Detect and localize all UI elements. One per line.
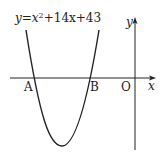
point-b-label: B [90, 81, 99, 93]
y-axis-label: y [126, 16, 133, 28]
equation-suffix: +14x+43 [44, 11, 101, 25]
parabola-curve [26, 30, 99, 146]
x-axis-label: x [148, 80, 155, 92]
equation-prefix: y=x [15, 11, 39, 25]
equation-label: y=x2+14x+43 [15, 12, 101, 24]
point-a-label: A [24, 81, 33, 93]
origin-label: O [121, 81, 131, 93]
